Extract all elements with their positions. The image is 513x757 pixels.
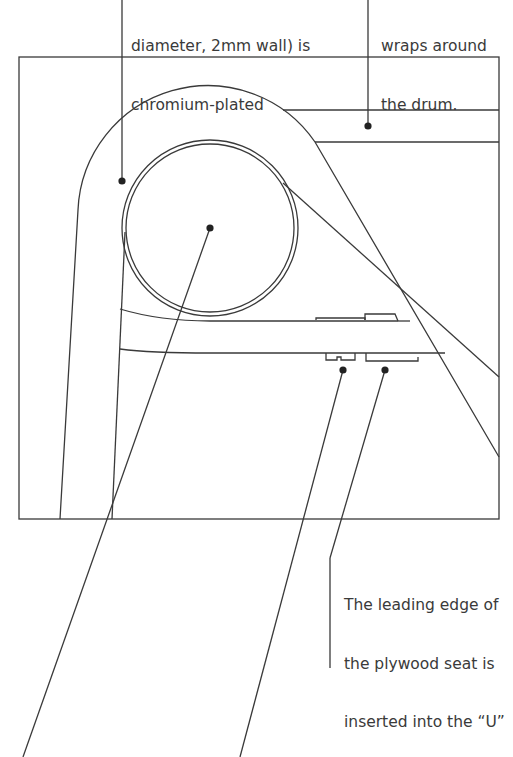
annotation-seat-line-3: inserted into the “U” (344, 713, 505, 733)
marker-seat-edge (381, 366, 388, 373)
seat-plate-step (365, 314, 398, 321)
annotation-wrap-line-2: the drum. (381, 96, 487, 116)
annotation-tube-line-2: chromium-plated (131, 96, 310, 116)
annotation-seat-line-1: The leading edge of (344, 596, 505, 616)
leader-bracket-left (240, 370, 343, 757)
inner-diagonal (283, 183, 499, 377)
marker-u-bracket (339, 366, 346, 373)
marker-tube (118, 177, 125, 184)
annotation-tube: diameter, 2mm wall) is chromium-plated (131, 0, 310, 135)
annotation-wrap-line-1: wraps around (381, 37, 487, 57)
rail-upper (120, 309, 398, 321)
annotation-wrap: wraps around the drum. (381, 0, 487, 135)
u-bracket-right (366, 353, 418, 361)
marker-wrap (364, 122, 371, 129)
annotation-seat: The leading edge of the plywood seat is … (344, 557, 505, 757)
annotation-tube-line-1: diameter, 2mm wall) is (131, 37, 310, 57)
leader-bracket-right (330, 370, 385, 558)
u-bracket-left (326, 353, 355, 360)
marker-drum (206, 224, 213, 231)
annotation-seat-line-2: the plywood seat is (344, 655, 505, 675)
leader-drum (23, 228, 210, 757)
seat-plate-top (316, 318, 365, 320)
rail-lower (120, 349, 445, 353)
tube-outer-edge (60, 86, 499, 519)
tube-inner-edge (112, 232, 125, 519)
